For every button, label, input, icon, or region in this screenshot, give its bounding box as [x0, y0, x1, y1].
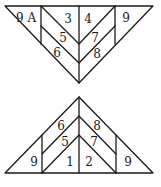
top-triangle: 9 A3495768 — [5, 6, 153, 83]
piece-label-6: 6 — [53, 46, 61, 60]
piece-label-8: 8 — [93, 47, 101, 61]
piece-label-4: 4 — [84, 12, 92, 26]
piece-label-6: 6 — [57, 119, 65, 133]
bottom-triangle: 68579129 — [5, 97, 153, 173]
piecing-diagram: 9 A3495768 68579129 — [0, 0, 161, 187]
piece-label-7: 7 — [90, 135, 98, 149]
piece-label-8: 8 — [93, 119, 101, 133]
piece-label-7: 7 — [91, 31, 99, 45]
piece-label-5: 5 — [59, 31, 67, 45]
piece-label-9A: 9 A — [16, 11, 36, 25]
piece-label-9-right: 9 — [124, 155, 132, 169]
piece-label-3: 3 — [64, 12, 72, 26]
piece-label-1: 1 — [66, 155, 74, 169]
piece-label-9-left: 9 — [30, 155, 38, 169]
piece-label-9: 9 — [122, 11, 130, 25]
piece-label-2: 2 — [85, 155, 93, 169]
piece-label-5: 5 — [61, 135, 69, 149]
